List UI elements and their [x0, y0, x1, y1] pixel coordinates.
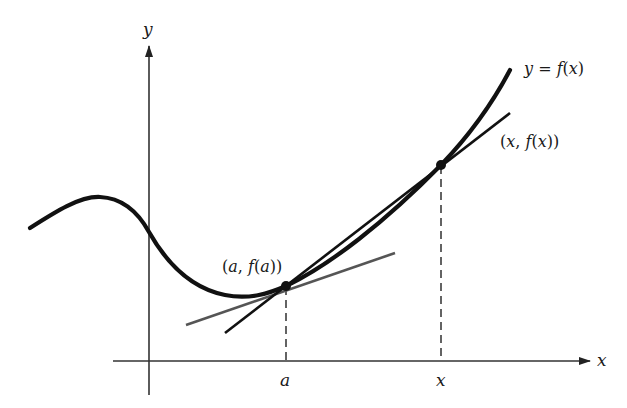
point-x-label: (x, f(x))	[500, 132, 559, 151]
point-x-marker	[436, 160, 446, 170]
secant-line	[225, 113, 510, 333]
point-a-marker	[281, 281, 291, 291]
x-axis-label: x	[597, 350, 607, 370]
y-axis-label: y	[142, 19, 153, 39]
tick-label-x: x	[436, 370, 446, 390]
secant-tangent-diagram: y x (a, f(a)) (x, f(x)) y = f(x) a x	[0, 0, 627, 408]
curve-label: y = f(x)	[523, 59, 584, 78]
point-a-label: (a, f(a))	[222, 257, 282, 276]
tangent-line	[186, 253, 395, 325]
tick-label-a: a	[280, 370, 290, 390]
